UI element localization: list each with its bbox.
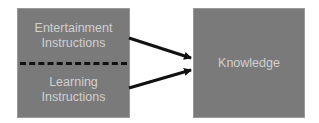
arrows-layer (0, 0, 319, 123)
arrow-learning-to-knowledge-icon (129, 70, 191, 88)
arrow-entertainment-to-knowledge-icon (129, 38, 191, 58)
